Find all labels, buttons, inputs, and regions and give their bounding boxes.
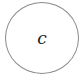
diagram-node-c: c bbox=[5, 2, 79, 74]
node-label: c bbox=[37, 30, 47, 47]
